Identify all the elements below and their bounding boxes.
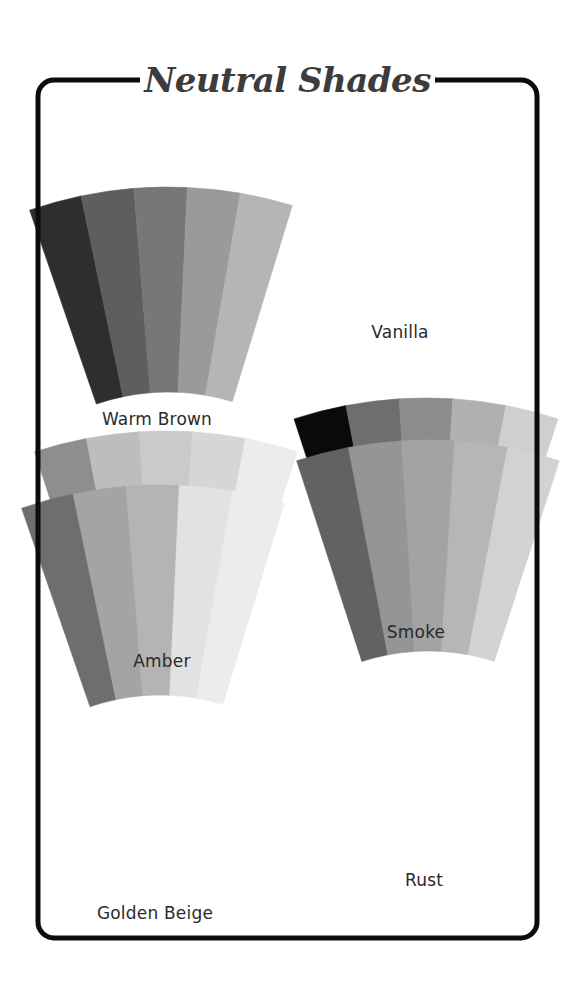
swatch-label-warm-brown: Warm Brown [102,409,212,429]
swatch-label-rust: Rust [405,870,443,890]
neutral-shades-card [0,0,575,987]
page-title-text: Neutral Shades [140,60,435,100]
swatch-label-vanilla: Vanilla [371,322,429,342]
swatch-label-amber: Amber [133,651,190,671]
swatch-fans [22,187,560,707]
swatch-label-golden-beige: Golden Beige [97,903,213,923]
page-title: Neutral Shades [0,60,575,100]
fan-warm-brown [30,187,293,404]
fan-golden-beige [22,485,285,707]
swatch-label-smoke: Smoke [387,622,445,642]
